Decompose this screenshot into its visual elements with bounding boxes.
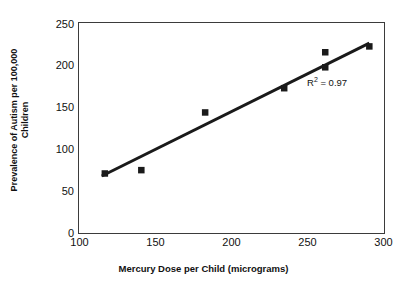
y-axis-tick-label: 150 xyxy=(38,101,74,113)
x-axis-title: Mercury Dose per Child (micrograms) xyxy=(0,263,407,274)
y-axis-tick-label: 250 xyxy=(38,18,74,30)
data-point-marker xyxy=(322,49,329,56)
x-axis-tick-label: 200 xyxy=(222,236,240,248)
plot-canvas xyxy=(79,23,383,232)
x-axis-tick-label: 100 xyxy=(70,236,88,248)
y-axis-tick-label: 100 xyxy=(38,143,74,155)
y-axis-title: Prevalence of Autism per 100,000 Childre… xyxy=(0,0,40,240)
x-axis-tick-label: 250 xyxy=(298,236,316,248)
r-squared-symbol: R xyxy=(307,77,314,88)
data-point-marker xyxy=(138,167,145,174)
y-axis-title-line-1: Prevalence of Autism per 100,000 xyxy=(9,49,19,192)
y-axis-title-line-2: Children xyxy=(20,49,31,192)
x-axis-tick-label: 150 xyxy=(146,236,164,248)
trend-line xyxy=(102,43,370,176)
data-point-marker xyxy=(366,43,373,50)
x-axis-tick-label: 300 xyxy=(374,236,392,248)
data-point-marker xyxy=(281,85,288,92)
r-squared-value: = 0.97 xyxy=(318,77,347,88)
data-point-marker xyxy=(322,64,329,71)
data-point-marker xyxy=(202,109,209,116)
y-axis-tick-label: 200 xyxy=(38,59,74,71)
chart-figure: Prevalence of Autism per 100,000 Childre… xyxy=(0,0,407,293)
y-axis-tick-label: 50 xyxy=(38,185,74,197)
data-point-marker xyxy=(102,170,109,177)
r-squared-annotation: R2 = 0.97 xyxy=(307,76,347,88)
x-axis-tick-labels: 100150200250300 xyxy=(0,236,407,254)
plot-area xyxy=(78,22,385,234)
